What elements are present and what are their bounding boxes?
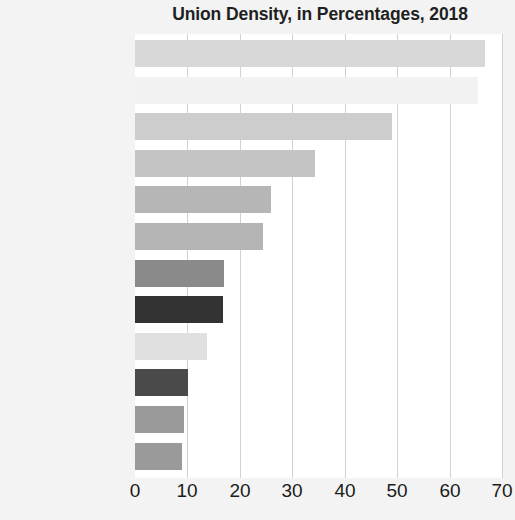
chart-title: Union Density, in Percentages, 2018 (135, 4, 505, 25)
x-tick-label: 40 (323, 480, 367, 502)
value-axis-labels: 010203040506070 (135, 480, 502, 512)
x-tick-label: 30 (270, 480, 314, 502)
x-tick-label: 0 (113, 480, 157, 502)
bar-chart-figure: Union Density, in Percentages, 2018 Denm… (0, 0, 515, 520)
x-tick-label: 10 (165, 480, 209, 502)
x-tick-label: 70 (480, 480, 515, 502)
x-tick-label: 60 (428, 480, 472, 502)
category-axis-labels: DenmarkSwedenNorwayItalyCanadaIrelandJap… (0, 34, 515, 478)
x-tick-label: 50 (375, 480, 419, 502)
x-tick-label: 20 (218, 480, 262, 502)
